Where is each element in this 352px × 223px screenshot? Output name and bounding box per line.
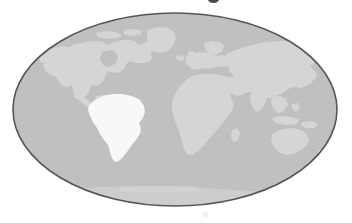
world-locator-map-figure: [0, 0, 352, 223]
bottom-crop-mark-icon: [203, 212, 208, 217]
world-map-graphic: [0, 0, 352, 223]
